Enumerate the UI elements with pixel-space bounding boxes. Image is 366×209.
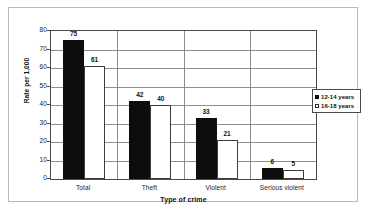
bar-value-label: 33: [196, 109, 217, 116]
bar-value-label: 21: [217, 131, 238, 138]
legend-item[interactable]: 16-18 years: [315, 101, 358, 110]
bar: [217, 140, 238, 179]
bar: [84, 66, 105, 179]
bar-value-label: 5: [283, 161, 304, 168]
bar: [283, 170, 304, 179]
bar: [63, 40, 84, 179]
x-axis-tick-label: Violent: [183, 184, 249, 191]
legend-item-label: 12-14 years: [321, 94, 354, 100]
chart-legend: 12-14 years16-18 years: [312, 89, 361, 113]
legend-item[interactable]: 12-14 years: [315, 92, 358, 101]
bar-value-label: 6: [262, 159, 283, 166]
category-separator: [184, 31, 185, 179]
legend-swatch-icon: [315, 104, 319, 108]
plot-area: 75614240332165: [50, 30, 317, 180]
bar: [262, 168, 283, 179]
y-axis-tick-marks: [9, 30, 50, 180]
bar-value-label: 75: [63, 31, 84, 38]
bar: [129, 101, 150, 179]
category-separator: [117, 31, 118, 179]
bar: [196, 118, 217, 179]
legend-item-label: 16-18 years: [321, 103, 354, 109]
x-axis-tick-labels: TotalTheftViolentSerious violent: [50, 184, 317, 196]
category-separator: [250, 31, 251, 179]
x-axis-tick-label: Theft: [116, 184, 182, 191]
x-axis-title: Type of crime: [50, 196, 317, 203]
bar: [150, 105, 171, 179]
x-axis-tick-label: Total: [50, 184, 116, 191]
bar-value-label: 61: [84, 57, 105, 64]
legend-swatch-icon: [315, 95, 319, 99]
chart-figure: Rate per 1,000 01020304050607080 7561424…: [8, 7, 358, 202]
bar-value-label: 42: [129, 92, 150, 99]
bar-value-label: 40: [150, 96, 171, 103]
x-axis-tick-label: Serious violent: [249, 184, 315, 191]
